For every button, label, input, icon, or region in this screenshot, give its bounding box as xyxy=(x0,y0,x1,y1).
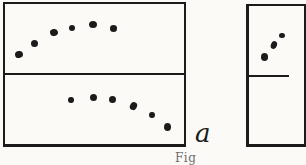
dot xyxy=(109,96,116,103)
dot xyxy=(89,21,97,28)
dot xyxy=(110,25,117,32)
dot xyxy=(261,53,268,61)
panel-label: a xyxy=(195,120,211,146)
figure-canvas: a Fig xyxy=(0,0,289,157)
figure-caption: Fig xyxy=(175,152,196,157)
dot xyxy=(69,25,75,31)
dot xyxy=(31,40,38,47)
dot xyxy=(164,123,171,131)
left-panel-divider-line xyxy=(5,73,184,75)
dot xyxy=(90,94,97,101)
right-panel-divider-line xyxy=(249,75,289,77)
